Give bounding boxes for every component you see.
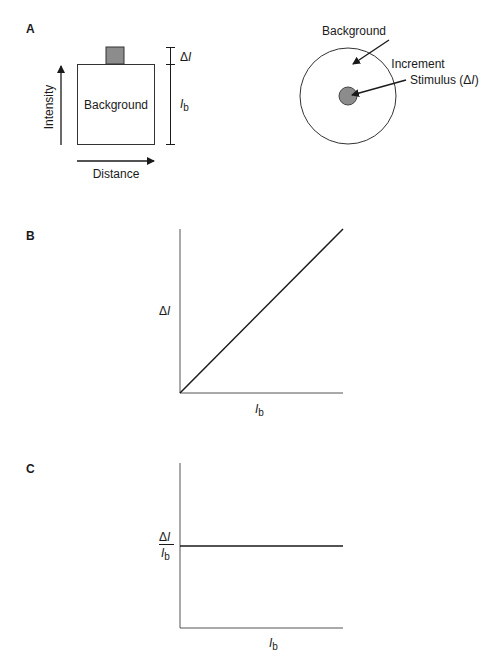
background-pointer-arrow-icon	[353, 40, 389, 64]
chart-b-weber-linear: ΔI Ib	[159, 229, 343, 418]
svg-text:Ib: Ib	[161, 546, 170, 562]
increment-label-line2: Stimulus (ΔI)	[410, 73, 479, 87]
increment-stimulus-disc	[339, 87, 357, 105]
intensity-profile-diagram: Background Intensity Distance ΔI Ib	[42, 47, 192, 181]
figure-canvas: A Background Intensity Distance ΔI Ib Ba…	[0, 0, 499, 662]
background-box-label: Background	[84, 98, 148, 112]
panel-label-a: A	[26, 22, 35, 36]
chart-c-x-label: Ib	[269, 636, 278, 652]
ib-bracket-label: Ib	[180, 97, 189, 113]
chart-c-y-label: ΔI Ib	[159, 530, 174, 562]
background-field-label: Background	[322, 24, 386, 38]
increment-pointer-arrow-icon	[352, 80, 406, 95]
increment-stimulus-bar	[106, 47, 124, 64]
panel-label-b: B	[26, 229, 35, 243]
intensity-axis-label: Intensity	[42, 85, 56, 130]
distance-axis-label: Distance	[93, 167, 140, 181]
target-stimulus-diagram: Background Increment Stimulus (ΔI)	[300, 24, 479, 144]
chart-c-weber-fraction: ΔI Ib Ib	[159, 463, 343, 652]
intensity-bracket	[166, 47, 175, 145]
panel-label-c: C	[26, 462, 35, 476]
chart-b-data-line	[180, 229, 343, 393]
svg-text:ΔI: ΔI	[159, 530, 171, 544]
delta-i-bracket-label: ΔI	[180, 50, 192, 64]
chart-b-y-label: ΔI	[159, 304, 171, 318]
increment-label-line1: Increment	[391, 57, 445, 71]
chart-b-x-label: Ib	[255, 402, 264, 418]
